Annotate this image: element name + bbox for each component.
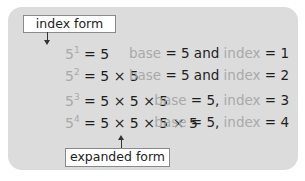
base-number: 5 bbox=[65, 115, 74, 131]
base-value: = 5 and bbox=[165, 45, 223, 61]
index-expression: 51 = 5 bbox=[65, 45, 109, 62]
expression-row-2: 52 = 5 × 5 base = 5 and index = 2 bbox=[0, 67, 305, 87]
index-word: index bbox=[224, 92, 261, 108]
expression-row-1: 51 = 5 base = 5 and index = 1 bbox=[0, 45, 305, 65]
exponent: 2 bbox=[74, 67, 80, 77]
base-number: 5 bbox=[65, 93, 74, 109]
index-expression: 52 = 5 × 5 bbox=[65, 67, 139, 84]
base-word: base bbox=[129, 45, 161, 61]
base-number: 5 bbox=[65, 68, 74, 84]
exponent: 1 bbox=[74, 45, 80, 55]
exponent: 3 bbox=[74, 92, 80, 102]
base-number: 5 bbox=[65, 46, 74, 62]
base-index-description: base = 5 and index = 2 bbox=[129, 67, 289, 83]
base-value: = 5 and bbox=[165, 67, 223, 83]
index-expression: 53 = 5 × 5 × 5 bbox=[65, 92, 168, 109]
index-word: index bbox=[224, 45, 261, 61]
index-value: = 3 bbox=[261, 92, 289, 108]
base-index-description: base = 5 and index = 1 bbox=[129, 45, 289, 61]
expression-row-4: 54 = 5 × 5 × 5 × 5 base = 5, index = 4 bbox=[0, 114, 305, 134]
expression-row-3: 53 = 5 × 5 × 5 base = 5, index = 3 bbox=[0, 92, 305, 112]
index-value: = 4 bbox=[261, 114, 289, 130]
index-form-label: index form bbox=[23, 15, 116, 33]
arrow-down-icon bbox=[47, 32, 48, 43]
expansion: = 5 bbox=[84, 46, 109, 62]
index-word: index bbox=[224, 114, 261, 130]
arrow-up-icon bbox=[121, 137, 122, 148]
index-word: index bbox=[224, 67, 261, 83]
base-word: base bbox=[154, 92, 186, 108]
base-value: = 5, bbox=[191, 114, 224, 130]
expanded-form-label: expanded form bbox=[65, 148, 170, 167]
exponent: 4 bbox=[74, 114, 80, 124]
index-value: = 2 bbox=[261, 67, 289, 83]
base-index-description: base = 5, index = 4 bbox=[154, 114, 289, 130]
base-word: base bbox=[154, 114, 186, 130]
base-value: = 5, bbox=[191, 92, 224, 108]
index-value: = 1 bbox=[261, 45, 289, 61]
base-word: base bbox=[129, 67, 161, 83]
base-index-description: base = 5, index = 3 bbox=[154, 92, 289, 108]
